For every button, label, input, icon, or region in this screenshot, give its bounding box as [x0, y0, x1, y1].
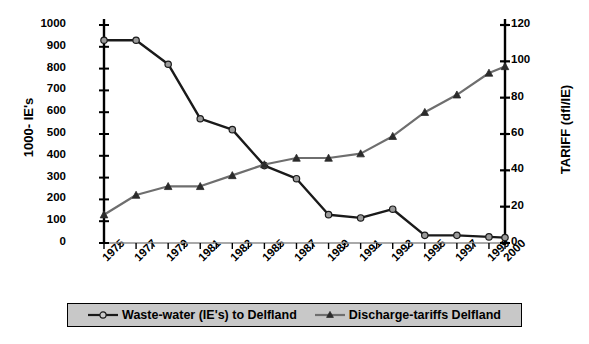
data-point: [502, 234, 508, 240]
data-point: [357, 215, 363, 221]
data-point: [486, 234, 492, 240]
data-point: [501, 63, 509, 70]
legend-label-waste-water: Waste-water (IE's) to Delfland: [122, 308, 297, 322]
triangle-marker-icon: [315, 309, 345, 321]
data-point: [422, 232, 428, 238]
data-point: [101, 37, 107, 43]
series-line-0: [104, 40, 505, 237]
legend-item-discharge-tariffs[interactable]: Discharge-tariffs Delfland: [315, 308, 501, 322]
data-point: [325, 211, 331, 217]
plot-area: [0, 0, 589, 344]
data-point: [133, 37, 139, 43]
data-point: [390, 206, 396, 212]
data-point: [293, 175, 299, 181]
series-line-1: [104, 66, 505, 214]
legend-item-waste-water[interactable]: Waste-water (IE's) to Delfland: [88, 308, 297, 322]
data-point: [454, 232, 460, 238]
chart-figure: 1000- IE's TARIFF (dfl/IE) 0100200300400…: [0, 0, 589, 344]
chart-legend: Waste-water (IE's) to Delfland Discharge…: [67, 303, 522, 327]
data-point: [165, 61, 171, 67]
legend-label-discharge-tariffs: Discharge-tariffs Delfland: [349, 308, 501, 322]
circle-marker-icon: [88, 309, 118, 321]
data-point: [229, 126, 235, 132]
data-point: [197, 116, 203, 122]
